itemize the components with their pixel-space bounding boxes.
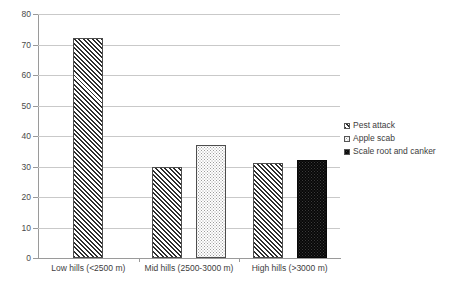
legend-item[interactable]: Pest attack: [344, 120, 457, 131]
y-tick-mark: [33, 14, 38, 15]
y-tick-mark: [33, 45, 38, 46]
bar: [196, 145, 226, 258]
y-tick-label: 30: [3, 163, 31, 172]
y-tick-label: 0: [3, 254, 31, 263]
x-axis-tick-label: Low hills (<2500 m): [38, 263, 139, 274]
legend-swatch-icon: [344, 149, 350, 155]
bar: [152, 167, 182, 259]
x-axis-tick-label: High hills (>3000 m): [239, 263, 340, 274]
legend-label: Scale root and canker: [353, 147, 436, 156]
bar: [73, 38, 103, 258]
x-axis-separator-tick: [139, 258, 140, 262]
y-tick-mark: [33, 106, 38, 107]
legend-swatch-icon: [344, 136, 350, 142]
y-tick-label: 70: [3, 41, 31, 50]
gridline: [38, 14, 340, 15]
bar: [253, 163, 283, 258]
legend-label: Pest attack: [353, 121, 395, 130]
x-axis-line: [38, 258, 341, 259]
y-tick-label: 10: [3, 224, 31, 233]
y-tick-label: 50: [3, 102, 31, 111]
y-tick-mark: [33, 197, 38, 198]
y-tick-mark: [33, 258, 38, 259]
legend-item[interactable]: Apple scab: [344, 133, 457, 144]
y-tick-mark: [33, 75, 38, 76]
y-tick-mark: [33, 136, 38, 137]
legend-swatch-icon: [344, 123, 350, 129]
legend-label: Apple scab: [353, 134, 395, 143]
x-axis-separator-tick: [239, 258, 240, 262]
bar: [297, 160, 327, 258]
legend-item[interactable]: Scale root and canker: [344, 146, 457, 157]
bar-chart: 80706050403020100 Low hills (<2500 m)Mid…: [0, 0, 457, 285]
x-axis-tick-label: Mid hills (2500-3000 m): [139, 263, 240, 274]
y-tick-mark: [33, 167, 38, 168]
y-tick-label: 40: [3, 132, 31, 141]
chart-legend: Pest attackApple scabScale root and cank…: [344, 120, 457, 159]
plot-area: [38, 14, 340, 258]
y-tick-label: 80: [3, 10, 31, 19]
y-tick-label: 20: [3, 193, 31, 202]
y-tick-label: 60: [3, 71, 31, 80]
y-tick-mark: [33, 228, 38, 229]
